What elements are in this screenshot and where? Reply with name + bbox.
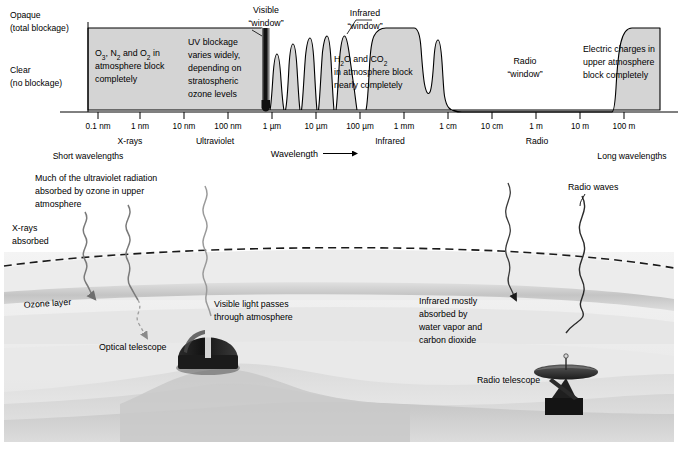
tick-label: 1 cm [439, 122, 457, 131]
svg-text:nearly completely: nearly completely [334, 80, 403, 90]
tick-label: 100 µm [346, 122, 374, 131]
annotation-uv-absorbed: Much of the ultraviolet radiation absorb… [35, 173, 157, 209]
wavelength-axis-label: Wavelength [271, 149, 318, 159]
tick-label: 1 nm [131, 122, 149, 131]
svg-text:atmosphere: atmosphere [35, 199, 82, 209]
svg-text:completely: completely [95, 74, 138, 84]
svg-text:varies widely,: varies widely, [188, 50, 240, 60]
band-label-ultraviolet: Ultraviolet [196, 136, 235, 146]
opacity-chart: 0.1 nm 1 nm 10 nm 100 nm 1 µm 10 µm 100 … [10, 5, 678, 161]
svg-text:atmosphere block: atmosphere block [95, 61, 165, 71]
svg-text:upper atmosphere: upper atmosphere [583, 57, 655, 67]
annotation-optical-telescope: Optical telescope [99, 342, 167, 352]
axis-label-clear-sub: (no blockage) [10, 78, 62, 88]
dish-base [545, 398, 583, 415]
svg-text:absorbed: absorbed [12, 236, 49, 246]
svg-text:block completely: block completely [583, 70, 649, 80]
atmospheric-opacity-figure: 0.1 nm 1 nm 10 nm 100 nm 1 µm 10 µm 100 … [0, 0, 678, 450]
svg-text:Infrared mostly: Infrared mostly [419, 296, 478, 306]
annotation-ionosphere: Electric charges in upper atmosphere blo… [583, 44, 655, 80]
tick-label: 100 nm [214, 122, 241, 131]
svg-text:Visible: Visible [253, 5, 279, 15]
svg-text:Radio: Radio [514, 56, 537, 66]
band-label-infrared: Infrared [375, 136, 405, 146]
svg-text:Much of the ultraviolet radiat: Much of the ultraviolet radiation [35, 173, 157, 183]
axis-ticks [98, 112, 624, 119]
svg-text:Electric charges in: Electric charges in [583, 44, 655, 54]
svg-text:absorbed by: absorbed by [419, 309, 468, 319]
svg-text:ozone levels: ozone levels [188, 89, 238, 99]
dish-feed-tip [564, 354, 568, 358]
opacity-axis-labels: Opaque (total blockage) Clear (no blocka… [10, 10, 69, 88]
tick-label: 10 nm [173, 122, 196, 131]
band-label-xrays: X-rays [118, 136, 143, 146]
svg-text:“window”: “window” [248, 18, 283, 28]
band-label-radio: Radio [526, 136, 549, 146]
callout-visible-window: Visible “window” [248, 5, 283, 28]
svg-text:“window”: “window” [507, 69, 542, 79]
annotation-radio-waves: Radio waves [568, 182, 619, 192]
svg-text:depending on: depending on [188, 63, 241, 73]
tick-label: 10 cm [481, 122, 503, 131]
svg-text:stratospheric: stratospheric [188, 76, 239, 86]
tick-label: 1 mm [394, 122, 415, 131]
long-wavelengths-label: Long wavelengths [597, 151, 666, 161]
tick-label: 100 m [613, 122, 636, 131]
axis-label-clear-top: Clear [10, 65, 31, 75]
axis-label-opaque-sub: (total blockage) [10, 23, 69, 33]
visible-window-band [262, 28, 271, 108]
svg-text:absorbed by ozone in upper: absorbed by ozone in upper [35, 186, 144, 196]
tick-label: 1 µm [263, 122, 282, 131]
annotation-xray-absorbed: X-rays absorbed [12, 223, 49, 246]
svg-text:through atmosphere: through atmosphere [214, 312, 293, 322]
svg-text:in atmosphere block: in atmosphere block [334, 67, 413, 77]
tick-label: 10 µm [305, 122, 328, 131]
annotation-uv-variable: UV blockage varies widely, depending on … [188, 37, 241, 99]
short-wavelengths-label: Short wavelengths [53, 151, 124, 161]
axis-label-opaque-top: Opaque [10, 10, 41, 20]
atmosphere-scene: Much of the ultraviolet radiation absorb… [4, 173, 674, 442]
dome-slit [205, 331, 211, 358]
svg-text:Visible light passes: Visible light passes [214, 299, 289, 309]
svg-text:UV blockage: UV blockage [188, 37, 238, 47]
svg-text:X-rays: X-rays [12, 223, 38, 233]
visible-window-bottom [262, 100, 271, 112]
callout-infrared-window: Infrared “window” [347, 8, 382, 31]
tick-label-group: 0.1 nm 1 nm 10 nm 100 nm 1 µm 10 µm 100 … [85, 122, 635, 131]
tick-label: 1 m [529, 122, 543, 131]
annotation-radio-telescope: Radio telescope [477, 375, 540, 385]
svg-text:Infrared: Infrared [350, 8, 380, 18]
tick-label: 10 m [571, 122, 589, 131]
spectrum-band-labels: X-rays Ultraviolet Infrared Radio [118, 136, 549, 146]
callout-radio-window: Radio “window” [507, 56, 542, 79]
svg-text:water vapor and: water vapor and [418, 322, 482, 332]
svg-text:carbon dioxide: carbon dioxide [419, 335, 476, 345]
svg-text:“window”: “window” [347, 21, 382, 31]
tick-label: 0.1 nm [85, 122, 110, 131]
